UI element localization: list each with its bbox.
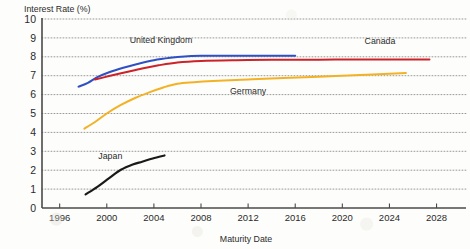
y-tick-label-1: 1 [30, 183, 36, 195]
y-tick-label-7: 7 [30, 69, 36, 81]
y-tick-label-3: 3 [30, 145, 36, 157]
y-tick-label-0: 0 [30, 202, 36, 214]
series-label-united-kingdom: United Kingdom [130, 35, 193, 45]
y-tick-label-5: 5 [30, 107, 36, 119]
x-tick-label-2008: 2008 [190, 212, 211, 223]
x-tick-label-2000: 2000 [96, 212, 117, 223]
y-tick-label-2: 2 [30, 164, 36, 176]
chart-figure: 0123456789101996200020042008201220162020… [0, 0, 470, 249]
y-tick-label-6: 6 [30, 88, 36, 100]
y-tick-label-8: 8 [30, 50, 36, 62]
x-tick-label-2028: 2028 [426, 212, 447, 223]
x-tick-label-2012: 2012 [238, 212, 259, 223]
series-label-japan: Japan [98, 151, 122, 161]
series-line-germany [84, 73, 406, 129]
x-axis-title: Maturity Date [220, 234, 272, 244]
y-axis-title: Interest Rate (%) [24, 4, 91, 14]
x-tick-label-2004: 2004 [143, 212, 164, 223]
y-tick-label-9: 9 [30, 32, 36, 44]
chart-canvas: 0123456789101996200020042008201220162020… [0, 0, 470, 249]
x-tick-label-2016: 2016 [285, 212, 306, 223]
x-tick-label-2024: 2024 [379, 212, 400, 223]
y-tick-label-4: 4 [30, 126, 36, 138]
series-label-canada: Canada [365, 36, 396, 46]
x-tick-label-1996: 1996 [49, 212, 70, 223]
y-tick-label-10: 10 [24, 13, 36, 25]
x-tick-label-2020: 2020 [332, 212, 353, 223]
series-line-japan [86, 155, 165, 194]
series-label-germany: Germany [230, 86, 267, 96]
